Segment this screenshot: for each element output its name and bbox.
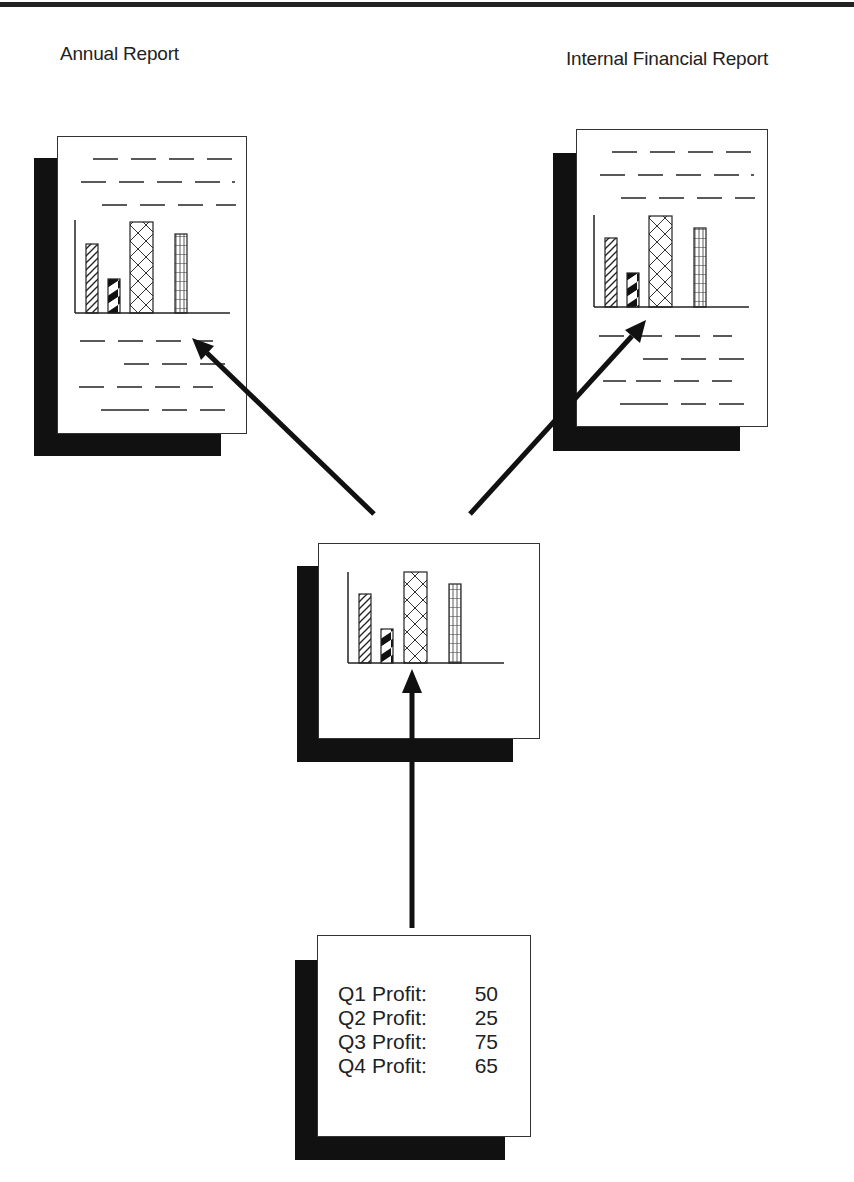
quarter-label: Q3 [338,1030,372,1054]
bar-q1 [359,594,371,663]
profit-row: Q3 Profit: 75 [338,1030,498,1054]
profit-value: 25 [458,1006,498,1030]
profit-label: Profit: [372,982,458,1006]
profit-label: Profit: [372,1030,458,1054]
document-page [576,129,768,427]
quarter-label: Q2 [338,1006,372,1030]
profit-value: 65 [458,1054,498,1078]
bar-q3 [404,572,427,663]
profit-row: Q1 Profit: 50 [338,982,498,1006]
document-content-icon [577,130,769,428]
bar-q4 [449,584,461,663]
document-page [57,136,247,434]
profit-table: Q1 Profit: 50 Q2 Profit: 25 Q3 Profit: 7… [338,982,498,1078]
data-card-page: Q1 Profit: 50 Q2 Profit: 25 Q3 Profit: 7… [317,935,531,1137]
profit-row: Q4 Profit: 65 [338,1054,498,1078]
quarter-label: Q4 [338,1054,372,1078]
profit-label: Profit: [372,1006,458,1030]
bar-chart [319,544,541,740]
internal-financial-report-label: Internal Financial Report [566,48,768,70]
quarter-label: Q1 [338,982,372,1006]
profit-row: Q2 Profit: 25 [338,1006,498,1030]
annual-report-label: Annual Report [60,43,179,65]
top-rule [0,2,854,7]
profit-value: 50 [458,982,498,1006]
document-content-icon [58,137,248,435]
profit-label: Profit: [372,1054,458,1078]
chart-card-page [318,543,540,739]
bar-q2 [381,629,393,663]
profit-value: 75 [458,1030,498,1054]
